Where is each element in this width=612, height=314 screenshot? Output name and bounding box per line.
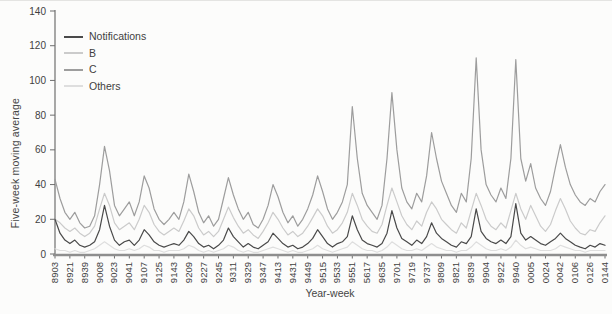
- legend-label: Others: [89, 80, 121, 93]
- x-tick-label: 9413: [272, 262, 283, 283]
- legend-swatch-notifications: [64, 36, 83, 38]
- legend-item-others: Others: [64, 80, 146, 94]
- y-axis-title: Five-week moving average: [9, 98, 21, 228]
- x-tick-label: 9737: [421, 262, 432, 283]
- y-tick-label: 40: [35, 179, 47, 190]
- x-tick-label: 9551: [346, 262, 357, 283]
- x-tick-label: 5617: [361, 262, 372, 283]
- x-tick-label: 9041: [123, 262, 134, 283]
- y-tick-label: 0: [40, 249, 46, 260]
- x-tick-label: 0106: [569, 262, 580, 283]
- x-tick-label: 9431: [287, 262, 298, 283]
- y-tick-label: 20: [35, 214, 47, 225]
- x-tick-label: 9125: [153, 262, 164, 283]
- legend-label: C: [89, 63, 97, 76]
- x-tick-label: 8939: [79, 262, 90, 283]
- x-tick-label: 9023: [108, 262, 119, 283]
- x-tick-label: 9347: [257, 262, 268, 283]
- x-tick-label: 9245: [213, 262, 224, 283]
- x-tick-label: 9922: [495, 262, 506, 283]
- legend-item-notifications: Notifications: [64, 30, 146, 44]
- x-tick-label: 9449: [302, 262, 313, 283]
- x-tick-label: 9515: [317, 262, 328, 283]
- x-tick-label: 9227: [198, 262, 209, 283]
- x-tick-label: 9821: [450, 262, 461, 283]
- x-tick-label: 9143: [168, 262, 179, 283]
- legend-label: B: [89, 47, 96, 60]
- x-tick-label: 9635: [376, 262, 387, 283]
- x-tick-label: 9701: [391, 262, 402, 283]
- x-tick-label: 9311: [227, 262, 238, 282]
- y-tick-label: 60: [35, 144, 47, 155]
- x-tick-label: 0005: [525, 262, 536, 283]
- x-tick-label: 0126: [584, 262, 595, 283]
- x-tick-label: 8921: [64, 262, 75, 283]
- y-tick-label: 120: [29, 40, 46, 51]
- x-tick-label: 9107: [138, 262, 149, 283]
- x-tick-label: 9940: [510, 262, 521, 283]
- x-tick-label: 9008: [94, 262, 105, 283]
- x-tick-label: 0042: [554, 262, 565, 283]
- y-tick-label: 80: [35, 110, 47, 121]
- x-tick-label: 9719: [406, 262, 417, 283]
- legend-swatch-others: [64, 85, 83, 87]
- x-tick-label: 9209: [183, 262, 194, 283]
- y-tick-label: 140: [29, 6, 46, 17]
- legend: NotificationsBCOthers: [64, 30, 146, 93]
- y-tick-label: 100: [29, 75, 46, 86]
- legend-item-c: C: [64, 63, 146, 77]
- x-axis-title: Year-week: [55, 287, 605, 299]
- series-line-notifications: [55, 204, 605, 249]
- x-tick-label: 8903: [49, 262, 60, 283]
- x-tick-label: 0144: [599, 262, 610, 283]
- legend-label: Notifications: [89, 30, 146, 43]
- legend-swatch-b: [64, 52, 83, 54]
- x-tick-label: 9809: [435, 262, 446, 283]
- x-tick-label: 9839: [465, 262, 476, 283]
- legend-swatch-c: [64, 69, 83, 71]
- chart-figure: 0204060801001201408903892189399008902390…: [0, 0, 612, 314]
- legend-item-b: B: [64, 47, 146, 61]
- x-tick-label: 0024: [540, 262, 551, 283]
- x-tick-label: 9533: [331, 262, 342, 283]
- x-tick-label: 9904: [480, 262, 491, 283]
- x-tick-label: 9329: [242, 262, 253, 283]
